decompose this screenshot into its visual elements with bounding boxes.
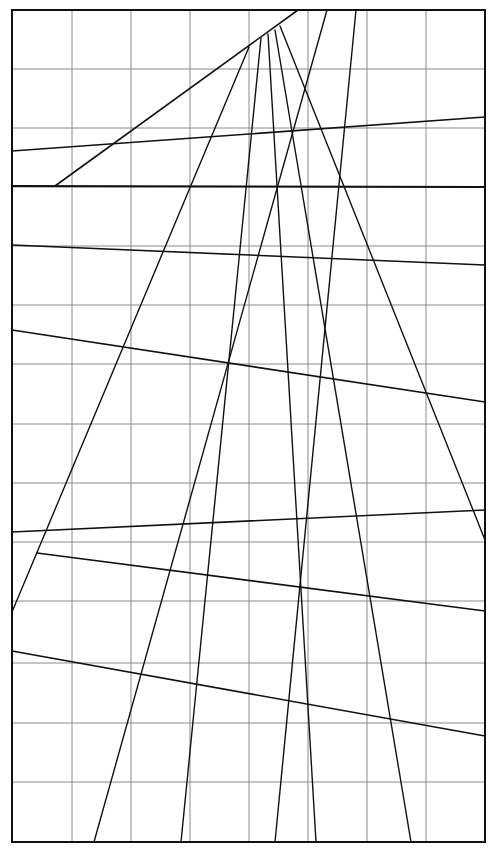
line-grid-diagram xyxy=(0,0,493,851)
line-segment-2 xyxy=(12,186,485,187)
